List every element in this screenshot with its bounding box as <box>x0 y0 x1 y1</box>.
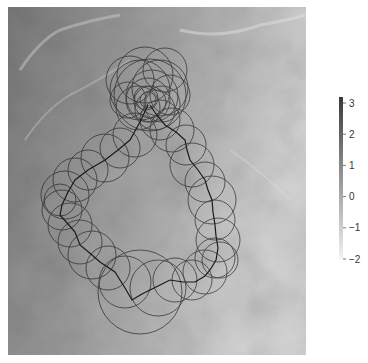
colorbar-ticks: 3210−1−2 <box>343 98 361 265</box>
colorbar: 3210−1−2 <box>339 97 361 265</box>
colorbar-tick-label: −1 <box>349 222 361 233</box>
colorbar-tick-label: −2 <box>349 254 361 265</box>
colorbar-tick-label: 3 <box>349 98 355 109</box>
raster-image <box>8 7 306 355</box>
colorbar-tick-label: 1 <box>349 160 355 171</box>
chart-figure: 3210−1−2 <box>0 0 368 363</box>
colorbar-gradient <box>339 97 343 259</box>
colorbar-tick-label: 0 <box>349 191 355 202</box>
colorbar-tick-label: 2 <box>349 129 355 140</box>
